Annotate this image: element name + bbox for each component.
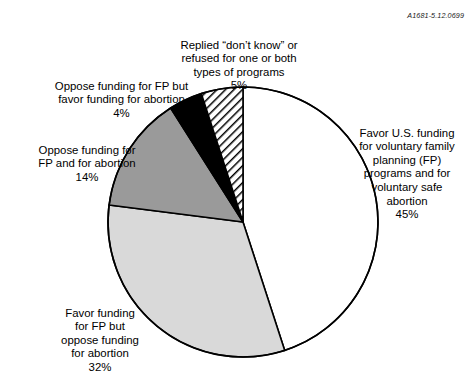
- slice-label-favor-both-text: Favor U.S. funding for voluntary family …: [359, 127, 455, 207]
- slice-label-oppose-both-percent: 14%: [11, 171, 163, 185]
- slice-label-favor-both: Favor U.S. funding for voluntary family …: [345, 113, 469, 235]
- slice-label-oppose-fp-favor-abortion-text: Oppose funding for FP but favor funding …: [55, 80, 188, 106]
- slice-label-favor-fp-oppose-abortion-percent: 32%: [24, 361, 176, 375]
- slice-label-oppose-both-text: Oppose funding for FP and for abortion: [38, 144, 135, 170]
- slice-label-favor-fp-oppose-abortion-text: Favor funding for FP but oppose funding …: [61, 307, 139, 360]
- slice-label-favor-both-percent: 45%: [345, 208, 469, 222]
- slice-label-oppose-fp-favor-abortion: Oppose funding for FP but favor funding …: [25, 66, 218, 134]
- slice-label-oppose-fp-favor-abortion-percent: 4%: [25, 107, 218, 121]
- pie-chart-figure: A1681-5.12.0699 Replied “don’t know” or …: [0, 0, 472, 382]
- slice-label-favor-fp-oppose-abortion: Favor funding for FP but oppose funding …: [24, 293, 176, 382]
- slice-label-oppose-both: Oppose funding for FP and for abortion 1…: [11, 130, 163, 198]
